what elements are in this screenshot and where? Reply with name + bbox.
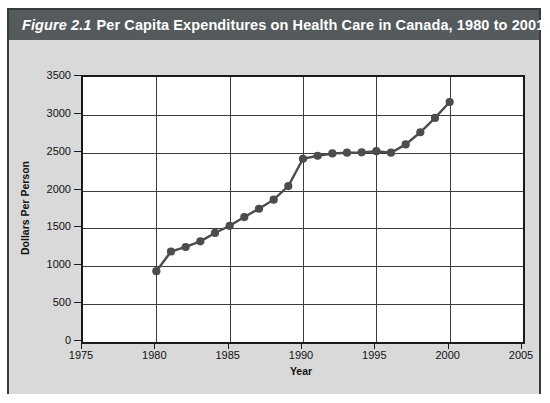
- figure-title: Per Capita Expenditures on Health Care i…: [97, 17, 545, 33]
- y-tick-label: 1500: [47, 220, 71, 232]
- data-point: [343, 149, 351, 157]
- y-tick-mark: [74, 340, 81, 341]
- data-point: [270, 196, 278, 204]
- figure-number: Figure 2.1: [22, 17, 92, 33]
- x-tick-label: 1995: [362, 349, 386, 361]
- data-point: [167, 247, 175, 255]
- x-tick-label: 2000: [435, 349, 459, 361]
- y-tick-mark: [74, 226, 81, 227]
- data-point: [314, 152, 322, 160]
- data-point: [402, 140, 410, 148]
- y-tick-mark: [74, 75, 81, 76]
- data-point: [255, 205, 263, 213]
- x-tick-label: 1980: [142, 349, 166, 361]
- data-point: [284, 182, 292, 190]
- y-tick-label: 500: [53, 296, 71, 308]
- figure-card: Figure 2.1Per Capita Expenditures on Hea…: [7, 8, 541, 394]
- x-axis-title: Year: [290, 365, 312, 377]
- y-tick-label: 1000: [47, 258, 71, 270]
- x-tick-label: 1985: [215, 349, 239, 361]
- chart-canvas: Dollars Per Person Year 0500100015002000…: [9, 40, 543, 394]
- y-tick-mark: [74, 151, 81, 152]
- figure-header: Figure 2.1Per Capita Expenditures on Hea…: [9, 10, 539, 40]
- data-point: [358, 148, 366, 156]
- y-tick-label: 2000: [47, 183, 71, 195]
- figure-caption: Figure 2.1Per Capita Expenditures on Hea…: [9, 17, 544, 33]
- data-point: [182, 243, 190, 251]
- y-tick-mark: [74, 302, 81, 303]
- figure-body: Dollars Per Person Year 0500100015002000…: [9, 40, 539, 394]
- plot-area: [81, 75, 525, 344]
- data-point: [299, 155, 307, 163]
- data-point: [226, 222, 234, 230]
- data-point: [431, 114, 439, 122]
- y-tick-mark: [74, 189, 81, 190]
- data-point: [240, 213, 248, 221]
- data-point: [152, 267, 160, 275]
- y-tick-label: 0: [65, 334, 71, 346]
- y-tick-label: 3500: [47, 69, 71, 81]
- series-line: [156, 102, 449, 271]
- y-tick-label: 2500: [47, 145, 71, 157]
- data-point: [372, 147, 380, 155]
- x-tick-label: 1975: [69, 349, 93, 361]
- data-series: [83, 77, 523, 342]
- y-tick-mark: [74, 113, 81, 114]
- data-point: [387, 149, 395, 157]
- y-axis-title: Dollars Per Person: [19, 161, 31, 255]
- data-point: [416, 128, 424, 136]
- x-tick-label: 1990: [289, 349, 313, 361]
- data-point: [211, 229, 219, 237]
- x-tick-label: 2005: [509, 349, 533, 361]
- data-point: [328, 149, 336, 157]
- y-tick-mark: [74, 264, 81, 265]
- y-tick-label: 3000: [47, 107, 71, 119]
- data-point: [196, 237, 204, 245]
- data-point: [446, 98, 454, 106]
